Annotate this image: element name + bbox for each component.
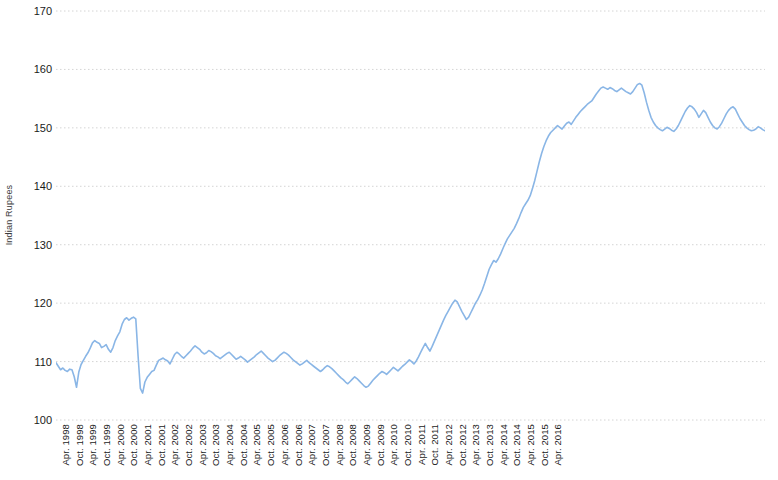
x-axis-tick-labels: Apr. 1998Oct. 1998Apr. 1999Oct. 1999Apr.… (56, 424, 765, 480)
x-tick-label: Oct. 2006 (293, 424, 304, 466)
x-tick-label: Apr. 1998 (60, 424, 71, 466)
x-tick-label: Oct. 2011 (429, 424, 440, 465)
x-tick-label: Apr. 2007 (306, 424, 317, 466)
x-tick-label: Apr. 2012 (443, 424, 454, 466)
y-axis-label: Indian Rupees (0, 0, 18, 430)
y-tick-label: 120 (34, 297, 52, 309)
plot-area (56, 0, 765, 430)
y-tick-label: 130 (34, 239, 52, 251)
x-tick-label: Oct. 2013 (484, 424, 495, 466)
x-tick-label: Apr. 2010 (388, 424, 399, 466)
x-tick-label: Oct. 2009 (375, 424, 386, 466)
x-tick-label: Apr. 2009 (361, 424, 372, 466)
y-axis-label-text: Indian Rupees (4, 185, 14, 246)
x-tick-label: Oct. 2004 (238, 424, 249, 466)
chart-container: Indian Rupees 100110120130140150160170 A… (0, 0, 778, 480)
x-tick-label: Oct. 2005 (265, 424, 276, 466)
x-tick-label: Apr. 2001 (142, 424, 153, 466)
y-tick-label: 140 (34, 180, 52, 192)
y-tick-label: 170 (34, 5, 52, 17)
data-series-line (56, 83, 765, 393)
x-tick-label: Oct. 2010 (402, 424, 413, 466)
x-tick-label: Apr. 2016 (552, 424, 563, 466)
x-tick-label: Oct. 1998 (74, 424, 85, 466)
x-tick-label: Apr. 2004 (224, 424, 235, 466)
x-tick-label: Oct. 2015 (539, 424, 550, 466)
x-tick-label: Apr. 2006 (279, 424, 290, 466)
x-tick-label: Oct. 2003 (210, 424, 221, 466)
x-tick-label: Oct. 2000 (128, 424, 139, 466)
x-tick-label: Oct. 2012 (457, 424, 468, 466)
x-tick-label: Oct. 2007 (320, 424, 331, 466)
x-tick-label: Apr. 2003 (197, 424, 208, 466)
y-axis-tick-labels: 100110120130140150160170 (18, 0, 52, 440)
x-tick-label: Apr. 2011 (416, 424, 427, 465)
y-tick-label: 100 (34, 414, 52, 426)
y-tick-label: 150 (34, 122, 52, 134)
x-tick-label: Apr. 1999 (87, 424, 98, 466)
x-tick-label: Apr. 2015 (525, 424, 536, 466)
y-tick-label: 110 (34, 356, 52, 368)
x-tick-label: Apr. 2008 (334, 424, 345, 466)
x-tick-label: Apr. 2005 (251, 424, 262, 466)
x-tick-label: Apr. 2014 (498, 424, 509, 466)
x-tick-label: Apr. 2002 (169, 424, 180, 466)
y-tick-label: 160 (34, 63, 52, 75)
x-tick-label: Apr. 2000 (115, 424, 126, 466)
x-tick-label: Oct. 2002 (183, 424, 194, 466)
x-tick-label: Oct. 2008 (347, 424, 358, 466)
x-tick-label: Oct. 2014 (511, 424, 522, 466)
line-chart-svg (56, 0, 765, 430)
x-tick-label: Oct. 1999 (101, 424, 112, 466)
x-tick-label: Oct. 2001 (156, 424, 167, 466)
x-tick-label: Apr. 2013 (470, 424, 481, 466)
